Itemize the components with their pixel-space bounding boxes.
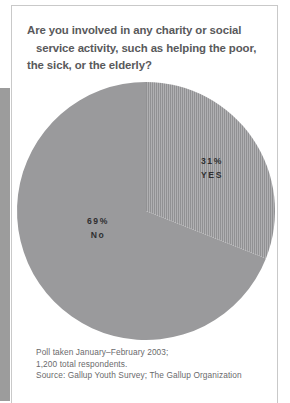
pie-label-yes-percent: 31% (176, 154, 248, 168)
source-note: Poll taken January–February 2003; 1,200 … (36, 347, 276, 382)
page-title-line-2: service activity, such as helping the po… (27, 40, 265, 58)
source-note-line-2: 1,200 total respondents. (36, 359, 276, 371)
page-title-line-3: the sick, or the elderly? (27, 57, 265, 75)
source-note-line-1: Poll taken January–February 2003; (36, 347, 276, 359)
pie-label-yes: 31% YES (176, 154, 248, 182)
page-title-line-1: Are you involved in any charity or socia… (27, 22, 265, 40)
page-title: Are you involved in any charity or socia… (27, 22, 265, 75)
source-note-line-3: Source: Gallup Youth Survey; The Gallup … (36, 370, 276, 382)
left-margin-bar (0, 88, 10, 401)
pie-label-no-percent: 69% (62, 214, 134, 228)
pie-label-no-name: No (62, 228, 134, 242)
pie-label-yes-name: YES (176, 168, 248, 182)
pie-label-no: 69% No (62, 214, 134, 242)
